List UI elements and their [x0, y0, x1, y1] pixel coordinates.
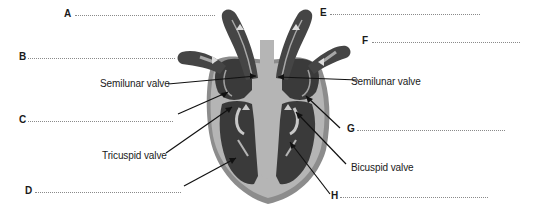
valve-label-bicuspid: Bicuspid valve — [351, 162, 414, 173]
right-side-vessel — [308, 46, 351, 74]
answer-field-g[interactable] — [357, 130, 505, 131]
label-letter-f: F — [362, 36, 368, 46]
answer-field-b[interactable] — [28, 58, 175, 59]
septum — [260, 40, 274, 179]
answer-field-f[interactable] — [372, 42, 520, 43]
valve-label-semilunar-left: Semilunar valve — [100, 78, 170, 89]
label-letter-b: B — [19, 52, 26, 62]
valve-label-semilunar-right: Semilunar valve — [351, 76, 421, 87]
answer-field-e[interactable] — [330, 14, 480, 15]
answer-field-d[interactable] — [35, 192, 181, 193]
valve-label-tricuspid: Tricuspid valve — [102, 150, 167, 161]
label-letter-a: A — [64, 9, 71, 19]
answer-field-c[interactable] — [28, 121, 173, 122]
label-letter-e: E — [320, 8, 327, 18]
heart-diagram-worksheet: A B C D E F G H Semilunar valve Semiluna… — [0, 0, 533, 209]
answer-field-h[interactable] — [340, 197, 488, 198]
label-letter-c: C — [19, 115, 26, 125]
label-letter-g: G — [347, 124, 355, 134]
label-letter-h: H — [331, 191, 338, 201]
left-side-vessel — [178, 51, 227, 74]
heart-illustration — [0, 0, 533, 209]
answer-field-a[interactable] — [75, 15, 215, 16]
label-letter-d: D — [25, 186, 32, 196]
